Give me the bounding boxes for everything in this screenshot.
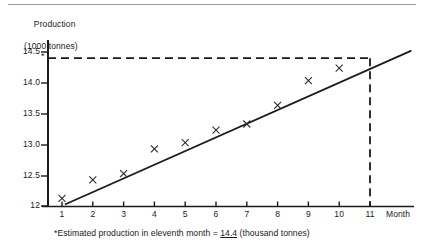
data-point-month-1 xyxy=(59,195,66,202)
data-point-month-8 xyxy=(274,102,281,109)
y-tick-label-14-5: 14.5 xyxy=(6,46,40,56)
footnote-prefix-text: Estimated production in eleventh month = xyxy=(57,228,220,238)
data-point-month-6 xyxy=(213,127,220,134)
data-point-month-9 xyxy=(305,77,312,84)
y-tick-label-12: 12 xyxy=(6,200,40,210)
x-tick-label-6: 6 xyxy=(206,209,226,219)
y-tick-label-12-5: 12.5 xyxy=(6,170,40,180)
x-tick-label-4: 4 xyxy=(144,209,164,219)
x-tick-label-11: 11 xyxy=(360,209,380,219)
y-tick-label-13-5: 13.5 xyxy=(6,108,40,118)
data-point-month-4 xyxy=(151,145,158,152)
production-chart-figure: Production (1000 tonnes) * xyxy=(0,0,423,247)
x-tick-label-1: 1 xyxy=(52,209,72,219)
y-axis-ticks xyxy=(41,52,48,206)
x-tick-label-3: 3 xyxy=(114,209,134,219)
y-tick-label-13-0: 13.0 xyxy=(6,139,40,149)
data-point-month-2 xyxy=(89,176,96,183)
axes-group xyxy=(42,40,414,207)
data-point-month-3 xyxy=(120,170,127,177)
data-point-month-5 xyxy=(182,139,189,146)
footnote-estimate-value: 14.4 xyxy=(220,228,237,238)
x-tick-label-8: 8 xyxy=(268,209,288,219)
y-tick-label-14-0: 14.0 xyxy=(6,77,40,87)
x-tick-label-5: 5 xyxy=(175,209,195,219)
x-tick-label-10: 10 xyxy=(329,209,349,219)
x-tick-label-9: 9 xyxy=(298,209,318,219)
data-point-month-10 xyxy=(336,65,343,72)
x-axis-name-label: Month xyxy=(386,209,410,219)
estimate-footnote: *Estimated production in eleventh month … xyxy=(54,228,310,238)
x-tick-label-2: 2 xyxy=(83,209,103,219)
x-tick-label-7: 7 xyxy=(237,209,257,219)
footnote-suffix-text: (thousand tonnes) xyxy=(237,228,310,238)
trend-line xyxy=(65,51,412,205)
data-point-markers xyxy=(59,65,343,202)
